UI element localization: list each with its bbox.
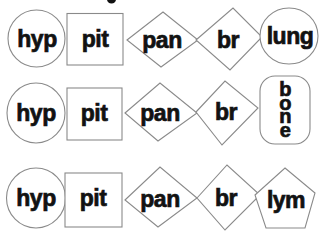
pit-label-row2: pit (81, 100, 108, 126)
br-label-row2: br (215, 99, 238, 125)
hyp-label-row3: hyp (16, 185, 56, 211)
row-1: hyp pit pan br lung (8, 8, 318, 70)
row-3: hyp pit pan br lym (7, 165, 316, 230)
bone-vertical-label-row2: b o n e (279, 78, 291, 141)
hyp-label-row2: hyp (16, 100, 56, 126)
cropped-character-fragment (107, 0, 116, 4)
pan-label-row2: pan (140, 100, 179, 126)
pan-label-row1: pan (142, 27, 181, 53)
lym-label-row3: lym (267, 187, 305, 213)
row-2: hyp pit pan br b o n e (7, 76, 310, 145)
organ-flow-diagram: hyp pit pan br lung hyp pit pan br b o n… (0, 0, 321, 233)
pit-label-row1: pit (82, 26, 109, 52)
diagram-canvas: hyp pit pan br lung hyp pit pan br b o n… (0, 0, 321, 233)
pan-label-row3: pan (140, 186, 179, 212)
br-label-row3: br (215, 185, 238, 211)
br-label-row1: br (217, 27, 240, 53)
bone-letter-e: e (280, 119, 291, 141)
hyp-label-row1: hyp (17, 26, 57, 52)
lung-label-row1: lung (267, 23, 314, 49)
pit-label-row3: pit (80, 185, 107, 211)
